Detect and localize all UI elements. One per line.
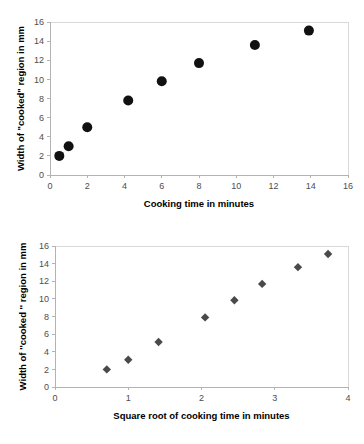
data-point — [154, 338, 162, 346]
data-point — [194, 58, 204, 68]
data-point — [64, 141, 74, 151]
y-tick-label: 6 — [44, 329, 49, 339]
y-tick-label: 2 — [39, 151, 44, 161]
data-point — [54, 151, 64, 161]
data-point — [324, 250, 332, 258]
y-tick-label: 6 — [39, 113, 44, 123]
x-tick-label: 4 — [345, 393, 350, 403]
y-tick-label: 4 — [44, 347, 49, 357]
x-tick-label: 0 — [47, 181, 52, 191]
data-point — [294, 263, 302, 271]
data-point — [124, 355, 132, 363]
y-tick-label: 10 — [34, 75, 44, 85]
x-tick-label: 16 — [343, 181, 353, 191]
x-tick-label: 1 — [126, 393, 131, 403]
x-tick-label: 0 — [52, 393, 57, 403]
data-point — [230, 296, 238, 304]
data-point — [250, 40, 260, 50]
y-tick-label: 12 — [39, 276, 49, 286]
x-tick-label: 6 — [159, 181, 164, 191]
data-point — [304, 26, 314, 36]
y-axis-title: Width of ''cooked '' region in mm — [17, 243, 28, 391]
x-tick-label: 12 — [268, 181, 278, 191]
y-tick-label: 14 — [34, 36, 44, 46]
x-tick-label: 8 — [196, 181, 201, 191]
chart-panel-top: 02468101214160246810121416Cooking time i… — [0, 0, 364, 222]
y-tick-label: 12 — [34, 55, 44, 65]
data-series — [103, 250, 333, 374]
x-tick-label: 2 — [199, 393, 204, 403]
data-point — [82, 122, 92, 132]
data-point — [201, 313, 209, 321]
x-tick-label: 10 — [231, 181, 241, 191]
data-point — [123, 95, 133, 105]
y-tick-label: 10 — [39, 294, 49, 304]
y-tick-label: 16 — [39, 241, 49, 251]
data-series — [54, 26, 314, 161]
y-tick-label: 0 — [39, 170, 44, 180]
y-axis-title: Width of "cooked" region in mm — [15, 26, 26, 171]
scatter-plot-cooking-time: 02468101214160246810121416Cooking time i… — [0, 0, 364, 222]
y-tick-label: 16 — [34, 17, 44, 27]
x-axis-title: Square root of cooking time in minutes — [113, 410, 289, 421]
y-tick-label: 2 — [44, 365, 49, 375]
data-point — [103, 365, 111, 373]
scatter-plot-sqrt-cooking-time: 024681012141601234Square root of cooking… — [0, 222, 364, 444]
y-tick-label: 8 — [44, 312, 49, 322]
y-tick-label: 4 — [39, 132, 44, 142]
y-tick-label: 14 — [39, 259, 49, 269]
x-tick-label: 14 — [306, 181, 316, 191]
x-tick-label: 2 — [85, 181, 90, 191]
data-point — [157, 76, 167, 86]
x-tick-label: 3 — [272, 393, 277, 403]
y-tick-label: 0 — [44, 382, 49, 392]
data-point — [258, 280, 266, 288]
x-axis-title: Cooking time in minutes — [144, 198, 254, 209]
chart-panel-bottom: 024681012141601234Square root of cooking… — [0, 222, 364, 444]
x-tick-label: 4 — [122, 181, 127, 191]
y-tick-label: 8 — [39, 94, 44, 104]
